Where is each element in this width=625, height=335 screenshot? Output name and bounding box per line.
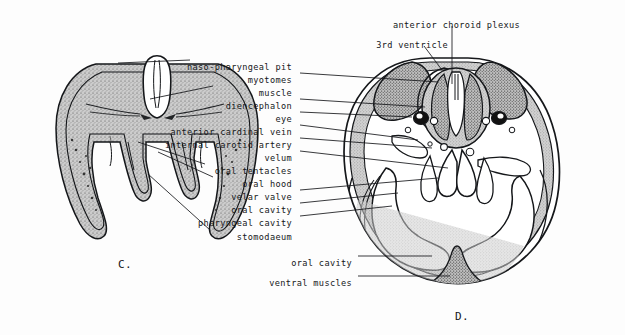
anatomy-label-12: pharyngeal cavity (198, 218, 292, 228)
panel-d-drawing (344, 58, 559, 301)
anatomy-label-11: oral cavity (231, 205, 292, 215)
anatomy-label-0: naso-pharyngeal pit (187, 62, 292, 72)
anatomy-label-1: 3rd ventricle (376, 40, 448, 50)
anatomy-label-1: ventral muscles (269, 278, 352, 288)
anatomy-label-1: myotomes (248, 75, 292, 85)
figure-plate: anterior choroid plexus3rd ventricle nas… (0, 0, 625, 335)
panel-caption-D: D. (455, 310, 469, 323)
anatomy-label-4: eye (275, 114, 292, 124)
anatomy-label-3: diencephalon (226, 101, 292, 111)
anatomy-label-0: oral cavity (291, 258, 352, 268)
anatomy-label-5: anterior cardinal vein (170, 127, 292, 137)
anatomy-label-8: oral tentacles (215, 166, 292, 176)
anatomy-label-9: oral hood (242, 179, 292, 189)
anatomy-label-10: velar valve (231, 192, 292, 202)
anatomy-label-2: muscle (259, 88, 292, 98)
panel-caption-C: C. (118, 258, 132, 271)
anatomy-label-7: velum (264, 153, 292, 163)
anatomy-label-13: stomodaeum (237, 232, 292, 242)
anatomy-label-0: anterior choroid plexus (393, 20, 520, 30)
anatomy-label-6: internal carotid artery (165, 140, 292, 150)
